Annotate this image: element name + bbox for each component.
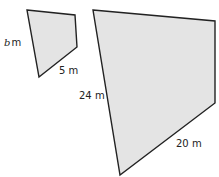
large-quadrilateral — [93, 10, 215, 175]
label-small-bottom-side: 5 m — [59, 65, 78, 76]
label-small-left-side: bm — [4, 37, 21, 48]
label-large-bottom-side: 20 m — [176, 138, 202, 149]
similar-shapes-diagram: bm 5 m 24 m 20 m — [0, 0, 219, 177]
label-large-left-side: 24 m — [79, 90, 105, 101]
